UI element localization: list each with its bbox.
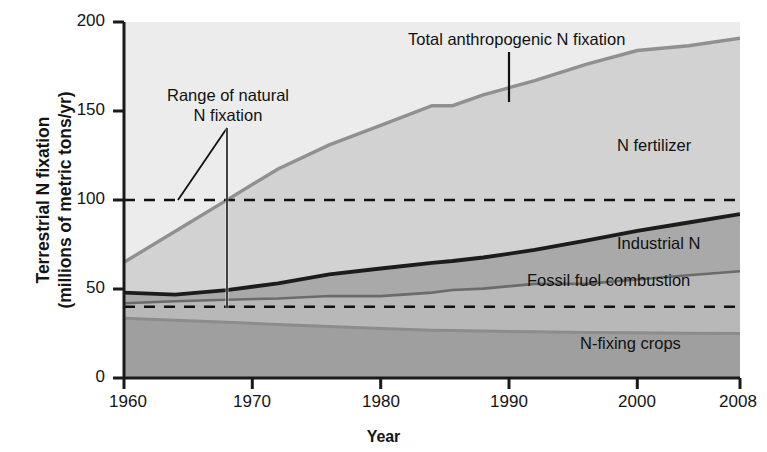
y-tick-label-100: 100 <box>45 189 105 209</box>
x-tick-label-1970: 1970 <box>212 392 292 412</box>
x-tick-label-2000: 2000 <box>597 392 677 412</box>
annotation-range-line2: N fixation <box>194 106 263 124</box>
x-tick-label-1990: 1990 <box>469 392 549 412</box>
annotation-range-of-natural-n-fixation: Range of natural N fixation <box>152 86 304 126</box>
x-axis-ticks <box>124 378 740 389</box>
y-axis-ticks <box>113 22 124 378</box>
annotation-fossil-fuel-combustion: Fossil fuel combustion <box>527 271 690 290</box>
y-tick-label-0: 0 <box>45 367 105 387</box>
stacked-area-chart <box>0 0 767 452</box>
x-tick-label-2008: 2008 <box>698 392 767 412</box>
annotation-n-fertilizer: N fertilizer <box>617 136 691 155</box>
x-axis-title: Year <box>0 428 767 446</box>
chart-figure: Terrestrial N fixation (millions of metr… <box>0 0 767 452</box>
annotation-total-anthropogenic-n-fixation: Total anthropogenic N fixation <box>408 30 625 49</box>
x-tick-label-1960: 1960 <box>88 392 168 412</box>
x-tick-label-1980: 1980 <box>341 392 421 412</box>
annotation-industrial-n: Industrial N <box>617 234 700 253</box>
y-tick-label-150: 150 <box>45 100 105 120</box>
y-tick-label-200: 200 <box>45 11 105 31</box>
annotation-n-fixing-crops: N-fixing crops <box>580 334 681 353</box>
annotation-range-line1: Range of natural <box>167 86 289 104</box>
y-tick-label-50: 50 <box>45 278 105 298</box>
